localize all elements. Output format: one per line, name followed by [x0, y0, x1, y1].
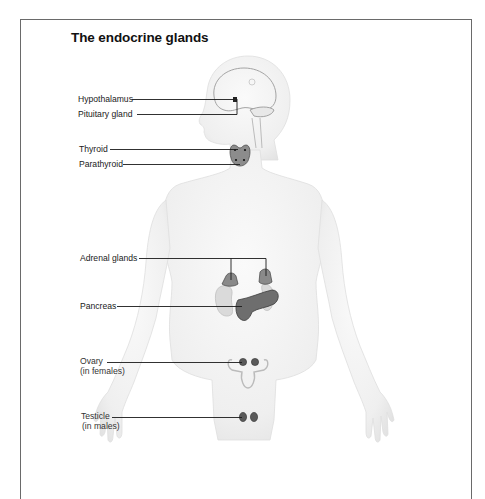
label-parathyroid: Parathyroid — [79, 159, 123, 169]
label-thyroid: Thyroid — [79, 144, 108, 154]
label-ovary-note: (in females) — [80, 366, 125, 376]
label-ovary: Ovary (in females) — [80, 356, 125, 376]
label-pancreas: Pancreas — [80, 301, 116, 311]
label-ovary-name: Ovary — [80, 356, 125, 366]
label-testicle-note: (in males) — [81, 421, 120, 431]
ovary-left — [239, 358, 246, 365]
thyroid-gland — [230, 145, 250, 166]
label-hypothalamus: Hypothalamus — [78, 94, 133, 104]
label-adrenal-glands: Adrenal glands — [80, 253, 137, 263]
label-testicle: Testicle (in males) — [81, 411, 120, 431]
label-testicle-name: Testicle — [81, 411, 120, 421]
label-pituitary-gland: Pituitary gland — [78, 109, 132, 119]
ovary-right — [251, 358, 258, 365]
